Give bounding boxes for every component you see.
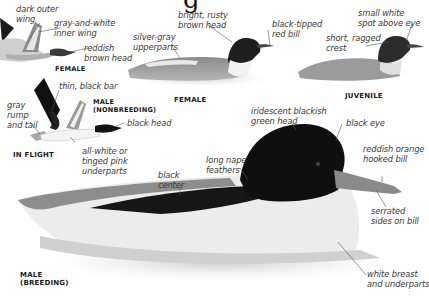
label-white-spot-above-eye: small white spot above eye bbox=[358, 8, 420, 28]
label-short-ragged-crest: short, ragged crest bbox=[326, 33, 381, 53]
label-reddish-orange-bill: reddish orange hooked bill bbox=[363, 144, 424, 164]
male-breeding-bird bbox=[18, 124, 420, 284]
label-black-tipped-bill: black-tipped red bill bbox=[272, 19, 322, 39]
label-iridescent-green-head: iridescent blackish green head bbox=[251, 106, 327, 126]
label-serrated-bill-sides: serrated sides on bill bbox=[371, 206, 419, 226]
label-silver-gray-upperparts: silver-gray upperparts bbox=[133, 32, 178, 52]
label-long-nape-feathers: long nape feathers bbox=[206, 155, 246, 175]
label-black-eye: black eye bbox=[346, 118, 385, 128]
label-dark-outer-wing: dark outer wing bbox=[16, 4, 58, 24]
caption-juvenile: JUVENILE bbox=[345, 92, 383, 100]
caption-female-flight: FEMALE bbox=[55, 65, 86, 73]
label-gray-white-inner-wing: gray-and-white inner wing bbox=[54, 18, 115, 38]
label-all-white-underparts: all-white or tinged pink underparts bbox=[82, 146, 128, 176]
caption-male-nonbreeding: MALE (NONBREEDING) bbox=[93, 98, 156, 114]
label-black-head-nonbreeding: black head bbox=[127, 118, 171, 128]
label-reddish-brown-head: reddish brown head bbox=[84, 43, 132, 63]
label-gray-rump-tail: gray rump and tail bbox=[7, 100, 37, 130]
label-bright-rusty-head: bright, rusty brown head bbox=[178, 10, 228, 30]
caption-male-breeding: MALE (BREEDING) bbox=[20, 271, 69, 287]
label-white-breast-underparts: white breast and underparts bbox=[367, 269, 429, 289]
label-thin-black-bar: thin, black bar bbox=[59, 81, 117, 91]
caption-in-flight: IN FLIGHT bbox=[13, 151, 54, 159]
label-black-center: black center bbox=[158, 170, 184, 190]
caption-female-swimming: FEMALE bbox=[174, 96, 206, 104]
